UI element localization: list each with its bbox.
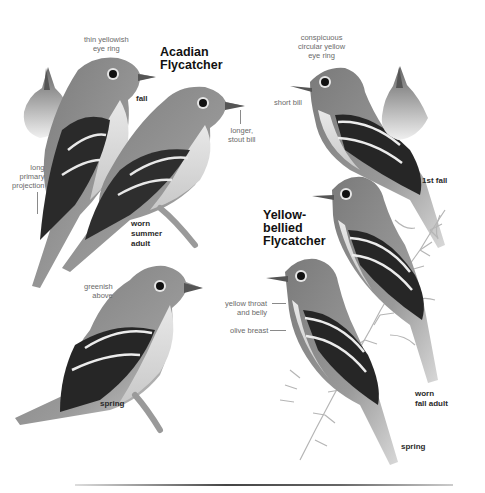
annotation-long-primary-projection: long primary projection bbox=[12, 163, 45, 190]
species-title-yellow-bellied: Yellow- bellied Flycatcher bbox=[263, 209, 326, 248]
yellow-bellied-front-head bbox=[382, 66, 428, 140]
annotation-line: eye ring bbox=[84, 44, 129, 53]
annotation-line: stout bill bbox=[228, 135, 256, 144]
age-label-line: fall adult bbox=[415, 399, 448, 409]
annotation-line: long bbox=[12, 163, 45, 172]
species-title-line: Flycatcher bbox=[160, 59, 223, 72]
annotation-line: yellow throat bbox=[225, 299, 267, 308]
annotation-line: longer, bbox=[228, 126, 256, 135]
age-label-line: adult bbox=[131, 239, 162, 249]
annotation-line: above bbox=[84, 291, 113, 300]
leader-line bbox=[240, 110, 241, 124]
age-label-line: 1st fall bbox=[422, 176, 447, 186]
species-title-acadian: Acadian Flycatcher bbox=[160, 46, 223, 72]
age-label-acadian-worn-summer-adult: worn summer adult bbox=[131, 219, 162, 249]
annotation-line: and belly bbox=[225, 308, 267, 317]
age-label-yellow-bellied-worn-fall-adult: worn fall adult bbox=[415, 389, 448, 409]
annotation-line: olive breast bbox=[230, 326, 268, 335]
annotation-line: thin yellowish bbox=[84, 35, 129, 44]
field-guide-plate: thin yellowish eye ring Acadian Flycatch… bbox=[0, 0, 485, 493]
annotation-line: circular yellow bbox=[298, 42, 345, 51]
age-label-line: summer bbox=[131, 229, 162, 239]
annotation-conspicuous-eye-ring: conspicuous circular yellow eye ring bbox=[298, 33, 345, 60]
age-label-acadian-spring: spring bbox=[100, 399, 124, 409]
annotation-olive-breast: olive breast bbox=[230, 326, 268, 335]
age-label-acadian-fall: fall bbox=[136, 94, 148, 104]
age-label-line: spring bbox=[401, 442, 425, 452]
leader-line bbox=[37, 192, 38, 214]
annotation-thin-eye-ring: thin yellowish eye ring bbox=[84, 35, 129, 53]
age-label-line: spring bbox=[100, 399, 124, 409]
annotation-longer-stout-bill: longer, stout bill bbox=[228, 126, 256, 144]
annotation-short-bill: short bill bbox=[274, 98, 302, 107]
leader-line bbox=[270, 330, 286, 331]
annotation-line: eye ring bbox=[298, 51, 345, 60]
species-title-line: Flycatcher bbox=[263, 235, 326, 248]
annotation-greenish-above: greenish above bbox=[84, 282, 113, 300]
leader-line bbox=[272, 303, 286, 304]
age-label-yellow-bellied-1st-fall: 1st fall bbox=[422, 176, 447, 186]
annotation-line: projection bbox=[12, 181, 45, 190]
age-label-yellow-bellied-spring: spring bbox=[401, 442, 425, 452]
annotation-yellow-throat-belly: yellow throat and belly bbox=[225, 299, 267, 317]
age-label-line: worn bbox=[415, 389, 448, 399]
age-label-line: worn bbox=[131, 219, 162, 229]
annotation-line: primary bbox=[12, 172, 45, 181]
bird-illustrations bbox=[0, 0, 485, 493]
annotation-line: conspicuous bbox=[298, 33, 345, 42]
annotation-line: greenish bbox=[84, 282, 113, 291]
annotation-line: short bill bbox=[274, 98, 302, 107]
bottom-rule-divider bbox=[75, 484, 453, 486]
age-label-line: fall bbox=[136, 94, 148, 104]
